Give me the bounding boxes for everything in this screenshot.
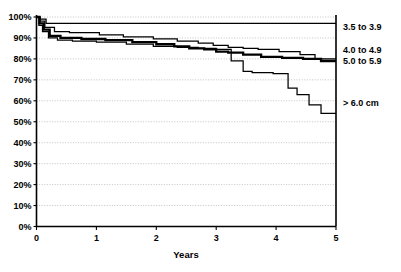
curve-series-3 <box>37 17 337 113</box>
x-axis-title: Years <box>173 249 198 260</box>
y-tick-label: 100% <box>8 12 31 22</box>
y-tick-label: 20% <box>13 180 31 190</box>
x-tick-label: 2 <box>154 233 159 243</box>
y-tick-label: 50% <box>13 117 31 127</box>
curve-series-group <box>37 17 337 113</box>
y-tick-label: 10% <box>13 201 31 211</box>
chart-page: 0%10%20%30%40%50%60%70%80%90%100% 012345… <box>0 0 401 272</box>
legend-label-2: 5.0 to 5.9 <box>343 56 382 66</box>
x-tick-label: 0 <box>34 233 39 243</box>
curve-series-0 <box>37 17 337 23</box>
survival-curve-chart: 0%10%20%30%40%50%60%70%80%90%100% 012345… <box>0 0 401 272</box>
y-tick-label: 40% <box>13 138 31 148</box>
y-tick-label: 60% <box>13 96 31 106</box>
x-tick-label: 3 <box>214 233 219 243</box>
y-tick-label: 80% <box>13 54 31 64</box>
y-tick-label: 0% <box>18 222 31 232</box>
y-tick-label: 30% <box>13 159 31 169</box>
y-tick-label: 70% <box>13 75 31 85</box>
legend-label-1: 4.0 to 4.9 <box>343 45 382 55</box>
y-axis-ticks: 0%10%20%30%40%50%60%70%80%90%100% <box>8 12 36 232</box>
legend-label-3: > 6.0 cm <box>343 98 379 108</box>
legend-label-0: 3.5 to 3.9 <box>343 22 382 32</box>
y-tick-label: 90% <box>13 33 31 43</box>
legend: 3.5 to 3.94.0 to 4.95.0 to 5.9> 6.0 cm <box>343 22 382 108</box>
x-tick-label: 1 <box>94 233 99 243</box>
x-axis-ticks: 012345 <box>34 227 339 243</box>
x-tick-label: 4 <box>274 233 279 243</box>
x-tick-label: 5 <box>333 233 338 243</box>
